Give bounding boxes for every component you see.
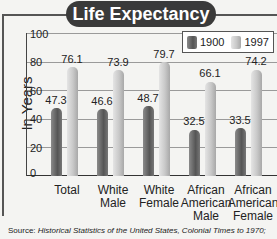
y-tick: 100 <box>30 28 48 40</box>
y-tick: 80 <box>30 56 42 68</box>
plot-area: 100 80 60 40 20 0 47.3 76.1 46.6 73.9 48… <box>26 33 277 176</box>
value-label: 79.7 <box>149 48 179 60</box>
value-label: 76.1 <box>57 53 87 65</box>
bar-1900-aa-male <box>189 130 200 177</box>
value-label: 74.2 <box>241 55 271 67</box>
value-label: 32.5 <box>179 115 209 127</box>
value-label: 47.3 <box>41 94 71 106</box>
bar-1997-white-male <box>113 70 124 176</box>
source-text: Historical Statistics of the United Stat… <box>38 226 266 235</box>
value-label: 33.5 <box>225 114 255 126</box>
source-label: Source: <box>8 226 36 235</box>
y-tick: 40 <box>30 113 42 125</box>
bar-1997-aa-male <box>205 82 216 177</box>
value-label: 46.6 <box>87 95 117 107</box>
bar-1900-total <box>51 108 62 176</box>
legend: 1900 1997 <box>182 31 274 53</box>
legend-label-1900: 1900 <box>200 36 224 48</box>
bar-1900-white-female <box>143 106 154 176</box>
chart-title: Life Expectancy <box>66 1 216 27</box>
value-label: 66.1 <box>195 67 225 79</box>
legend-label-1997: 1997 <box>244 36 268 48</box>
legend-swatch-1900-icon <box>187 36 197 49</box>
value-label: 73.9 <box>103 56 133 68</box>
bar-1997-total <box>67 67 78 176</box>
value-label: 48.7 <box>133 92 163 104</box>
y-tick: 0 <box>30 167 36 179</box>
bar-1900-white-male <box>97 109 108 176</box>
y-tick: 20 <box>30 142 42 154</box>
legend-swatch-1997-icon <box>231 36 241 49</box>
category-label: African American Female <box>225 184 277 223</box>
bar-1900-aa-female <box>235 128 246 176</box>
source-note: Source: Historical Statistics of the Uni… <box>8 226 266 235</box>
bar-1997-white-female <box>159 62 170 176</box>
